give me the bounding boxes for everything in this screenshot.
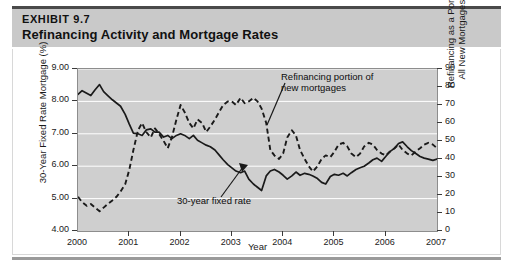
right-tick-mark — [437, 230, 442, 231]
exhibit-number: EXHIBIT 9.7 — [22, 12, 278, 27]
left-tick-mark — [72, 230, 77, 231]
exhibit-header: EXHIBIT 9.7 Refinancing Activity and Mor… — [12, 9, 501, 47]
left-tick-mark — [72, 133, 77, 134]
right-tick-mark — [437, 68, 442, 69]
right-tick-label: 70 — [445, 98, 465, 108]
right-tick-label: 0 — [445, 224, 465, 234]
right-axis-title: Refinancing as a Portion of All New Mort… — [445, 0, 467, 94]
exhibit-title: Refinancing Activity and Mortgage Rates — [22, 27, 278, 43]
left-tick-label: 5.00 — [31, 192, 69, 202]
left-tick-mark — [72, 198, 77, 199]
x-tick-mark — [180, 231, 181, 236]
right-tick-label: 60 — [445, 116, 465, 126]
left-tick-mark — [72, 68, 77, 69]
right-tick-label: 40 — [445, 152, 465, 162]
right-tick-label: 20 — [445, 188, 465, 198]
right-tick-mark — [437, 194, 442, 195]
annotation-refinancing-portion: Refinancing portion of new mortgages — [281, 71, 373, 93]
right-tick-mark — [437, 212, 442, 213]
right-tick-label: 30 — [445, 170, 465, 180]
right-tick-label: 50 — [445, 134, 465, 144]
x-tick-mark — [333, 231, 334, 236]
right-tick-mark — [437, 122, 442, 123]
x-tick-mark — [282, 231, 283, 236]
left-tick-mark — [72, 165, 77, 166]
bottom-rule — [12, 257, 501, 260]
gridlines — [78, 69, 437, 199]
chart-area: 9.008.007.006.005.004.00 908070605040302… — [13, 49, 502, 255]
series-refinancing-portion — [78, 98, 437, 211]
right-tick-mark — [437, 140, 442, 141]
x-tick-mark — [385, 231, 386, 236]
left-axis-title: 30-Year Fixed Rate Mortgage (%) — [37, 38, 48, 188]
left-tick-label: 4.00 — [31, 224, 69, 234]
exhibit-figure: EXHIBIT 9.7 Refinancing Activity and Mor… — [0, 0, 513, 267]
left-tick-mark — [72, 100, 77, 101]
right-tick-mark — [437, 176, 442, 177]
annotation-leader-fixed-rate — [217, 161, 251, 199]
right-tick-label: 10 — [445, 206, 465, 216]
chart-card: 9.008.007.006.005.004.00 908070605040302… — [12, 49, 501, 255]
right-tick-mark — [437, 86, 442, 87]
annotation-leader-refinancing — [259, 81, 289, 129]
x-tick-mark — [128, 231, 129, 236]
x-tick-mark — [231, 231, 232, 236]
plot-svg — [78, 69, 437, 231]
plot-area — [77, 68, 438, 232]
right-tick-mark — [437, 158, 442, 159]
x-axis-title: Year — [77, 241, 438, 252]
right-tick-mark — [437, 104, 442, 105]
